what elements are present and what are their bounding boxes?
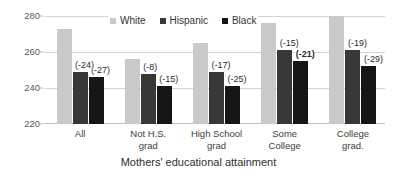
bar-chart: 280 260 240 220 (-24)(-27)(-8)(-15)(-17)… <box>0 0 397 178</box>
bar-group: (-17)(-25) <box>193 16 240 124</box>
y-tick-label: 240 <box>6 83 40 93</box>
bar-value-label: (-27) <box>91 66 111 75</box>
x-axis-title: Mothers' educational attainment <box>0 156 397 168</box>
bar-black-3 <box>293 61 308 124</box>
bar-black-2 <box>225 86 240 124</box>
legend-swatch-icon <box>110 18 116 24</box>
y-tick-label: 260 <box>6 47 40 57</box>
bar-white-4 <box>329 16 344 124</box>
bar-value-label: (-21) <box>295 50 315 59</box>
y-tick-mark <box>38 88 43 89</box>
y-tick-mark <box>38 52 43 53</box>
legend-item-black: Black <box>222 16 256 26</box>
bar-hispanic-0 <box>73 72 88 124</box>
legend-label: Black <box>232 16 256 26</box>
bar-value-label: (-29) <box>363 55 383 64</box>
bar-black-0 <box>89 77 104 124</box>
legend-label: Hispanic <box>170 16 208 26</box>
y-tick-mark <box>38 124 43 125</box>
bar-value-label: (-17) <box>211 61 231 70</box>
x-axis-label: All <box>75 128 86 140</box>
bar-value-label: (-25) <box>227 75 247 84</box>
legend-label: White <box>120 16 146 26</box>
bar-group: (-15)(-21) <box>261 16 308 124</box>
x-axis-label: Collegegrad. <box>337 128 369 152</box>
legend-swatch-icon <box>222 18 228 24</box>
bar-hispanic-2 <box>209 72 224 124</box>
bar-group: (-24)(-27) <box>57 16 104 124</box>
bar-group: (-8)(-15) <box>125 16 172 124</box>
y-tick-label: 220 <box>6 119 40 129</box>
bar-white-1 <box>125 59 140 124</box>
y-tick-label: 280 <box>6 11 40 21</box>
bar-white-2 <box>193 43 208 124</box>
x-axis-label: High Schoolgrad <box>191 128 242 152</box>
legend-item-hispanic: Hispanic <box>160 16 208 26</box>
bar-value-label: (-19) <box>347 39 367 48</box>
x-axis-label: Not H.S.grad <box>130 128 166 152</box>
bar-value-label: (-15) <box>279 39 299 48</box>
bar-white-0 <box>57 29 72 124</box>
legend-item-white: White <box>110 16 146 26</box>
x-axis-label: SomeCollege <box>269 128 301 152</box>
bar-black-4 <box>361 66 376 124</box>
plot-area: (-24)(-27)(-8)(-15)(-17)(-25)(-15)(-21)(… <box>44 16 385 124</box>
bar-group: (-19)(-29) <box>329 16 376 124</box>
legend-swatch-icon <box>160 18 166 24</box>
y-tick-mark <box>38 16 43 17</box>
bar-hispanic-4 <box>345 50 360 124</box>
bar-value-label: (-15) <box>159 75 179 84</box>
legend: White Hispanic Black <box>108 15 258 27</box>
bar-white-3 <box>261 23 276 124</box>
bar-hispanic-3 <box>277 50 292 124</box>
bar-hispanic-1 <box>141 74 156 124</box>
bar-black-1 <box>157 86 172 124</box>
bar-value-label: (-8) <box>143 63 158 72</box>
